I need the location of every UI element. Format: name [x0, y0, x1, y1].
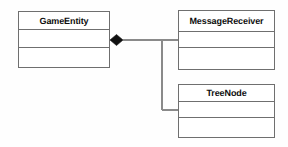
class-name-label: TreeNode	[206, 88, 246, 98]
class-operations-compartment	[19, 48, 109, 67]
uml-class-diagram-canvas: GameEntity MessageReceiver TreeNode	[0, 0, 288, 147]
class-operations-compartment	[179, 118, 274, 137]
class-title-compartment: GameEntity	[19, 12, 109, 30]
composition-diamond-icon	[110, 35, 123, 46]
class-operations-compartment	[179, 48, 274, 69]
class-attributes-compartment	[19, 30, 109, 47]
class-attributes-compartment	[179, 102, 274, 117]
class-title-compartment: TreeNode	[179, 85, 274, 102]
uml-class-gameentity[interactable]: GameEntity	[18, 11, 110, 68]
class-attributes-compartment	[179, 32, 274, 47]
class-name-label: GameEntity	[39, 16, 88, 26]
uml-class-messagereceiver[interactable]: MessageReceiver	[178, 10, 275, 70]
class-title-compartment: MessageReceiver	[179, 11, 274, 32]
uml-class-treenode[interactable]: TreeNode	[178, 84, 275, 138]
class-name-label: MessageReceiver	[189, 16, 263, 26]
